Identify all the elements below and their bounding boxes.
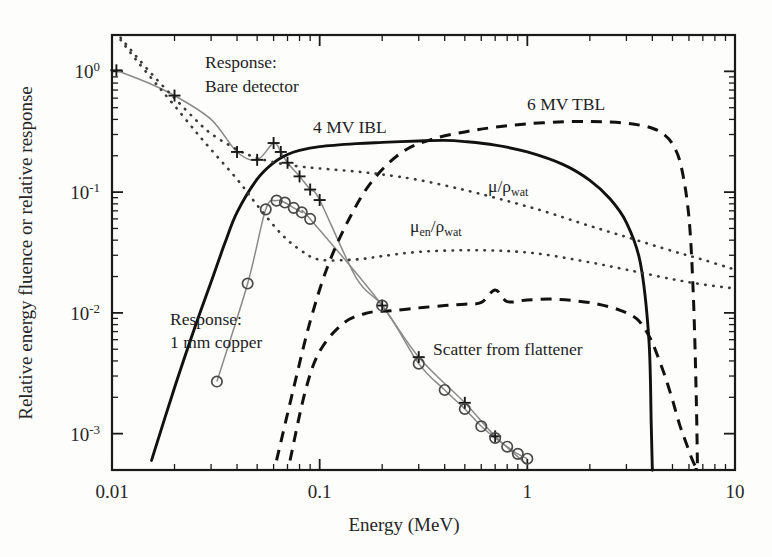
y-tick-label: 10-2 <box>70 301 100 324</box>
annotation-mu-rho-wat: μ/ρwat <box>488 176 529 199</box>
plot-frame <box>112 35 735 470</box>
y-tick-label: 100 <box>75 59 101 82</box>
x-tick-label: 0.01 <box>95 481 128 502</box>
annotation-bare-detector-line2: Bare detector <box>205 76 299 96</box>
annotation-4mv-ibl: 4 MV IBL <box>313 117 387 137</box>
x-axis-title: Energy (MeV) <box>349 514 460 536</box>
curve-scatter-from-flattener <box>290 290 696 468</box>
figure-container: 0.010.1110 10010-110-210-3 Energy (MeV) … <box>0 0 772 557</box>
y-tick-labels: 10010-110-210-3 <box>70 59 100 444</box>
chart-svg: 0.010.1110 10010-110-210-3 Energy (MeV) … <box>0 0 772 557</box>
x-tick-label: 1 <box>523 481 533 502</box>
x-tick-label: 0.1 <box>308 481 332 502</box>
curve-6-mv-tbl <box>277 121 698 470</box>
y-tick-label: 10-3 <box>70 422 100 445</box>
annotation-6mv-tbl: 6 MV TBL <box>527 94 605 114</box>
annotation-mu-en-rho-wat: μen/ρwat <box>410 216 462 239</box>
annotation-scatter-flattener: Scatter from flattener <box>433 339 583 359</box>
annotation-copper-line1: Response: <box>170 309 242 329</box>
y-tick-label: 10-1 <box>70 180 100 203</box>
marker-circle <box>212 376 222 386</box>
marker-plus <box>169 90 181 102</box>
marker-plus <box>251 154 263 166</box>
curve-4-mv-ibl <box>152 140 653 470</box>
marker-plus <box>314 194 326 206</box>
y-axis-title: Relative energy fluence or relative resp… <box>15 86 36 420</box>
annotation-copper-line2: 1 mm copper <box>170 332 263 352</box>
annotation-bare-detector-line1: Response: <box>205 52 277 72</box>
x-tick-labels: 0.010.1110 <box>95 481 744 502</box>
x-axis-ticks <box>112 35 735 470</box>
chart-curves <box>116 38 735 470</box>
x-tick-label: 10 <box>726 481 745 502</box>
